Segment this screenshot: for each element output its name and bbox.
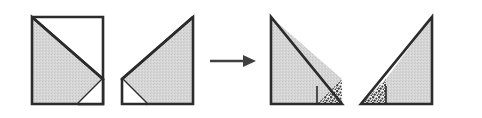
triangle-dissection-figure: Triangle dissection equivalence diagram …: [0, 0, 482, 118]
figure-container: Triangle dissection equivalence diagram …: [0, 0, 482, 118]
